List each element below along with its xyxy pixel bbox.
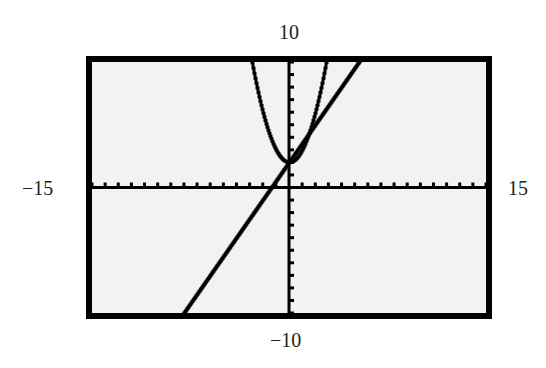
- y-tick: [290, 274, 294, 277]
- y-tick: [290, 224, 294, 227]
- y-tick: [290, 211, 294, 214]
- x-tick: [130, 183, 133, 187]
- y-tick: [290, 86, 294, 89]
- x-tick: [248, 183, 251, 187]
- calculator-graph-screen: [0, 0, 546, 368]
- y-tick: [290, 249, 294, 252]
- x-tick: [445, 183, 448, 187]
- x-tick: [471, 183, 474, 187]
- x-tick: [104, 183, 107, 187]
- y-tick: [290, 123, 294, 126]
- x-tick: [393, 183, 396, 187]
- x-tick: [91, 183, 94, 187]
- x-tick: [340, 183, 343, 187]
- x-tick: [458, 183, 461, 187]
- y-tick: [290, 299, 294, 302]
- y-tick: [290, 199, 294, 202]
- x-tick: [169, 183, 172, 187]
- y-tick: [290, 261, 294, 264]
- x-tick: [314, 183, 317, 187]
- y-tick: [290, 286, 294, 289]
- y-tick: [290, 173, 294, 176]
- y-tick: [290, 111, 294, 114]
- y-tick: [290, 236, 294, 239]
- x-tick: [353, 183, 356, 187]
- x-tick: [143, 183, 146, 187]
- x-tick: [222, 183, 225, 187]
- x-tick: [261, 183, 264, 187]
- x-tick: [432, 183, 435, 187]
- x-tick: [485, 183, 488, 187]
- x-tick: [366, 183, 369, 187]
- y-tick: [290, 148, 294, 151]
- x-tick: [209, 183, 212, 187]
- x-tick: [379, 183, 382, 187]
- y-tick: [290, 61, 294, 64]
- y-tick: [290, 312, 294, 315]
- x-tick: [182, 183, 185, 187]
- x-tick: [235, 183, 238, 187]
- x-tick: [327, 183, 330, 187]
- y-tick: [290, 73, 294, 76]
- x-tick: [406, 183, 409, 187]
- x-tick: [301, 183, 304, 187]
- x-tick: [419, 183, 422, 187]
- y-tick: [290, 136, 294, 139]
- x-tick: [196, 183, 199, 187]
- x-tick: [156, 183, 159, 187]
- x-tick: [117, 183, 120, 187]
- y-tick: [290, 98, 294, 101]
